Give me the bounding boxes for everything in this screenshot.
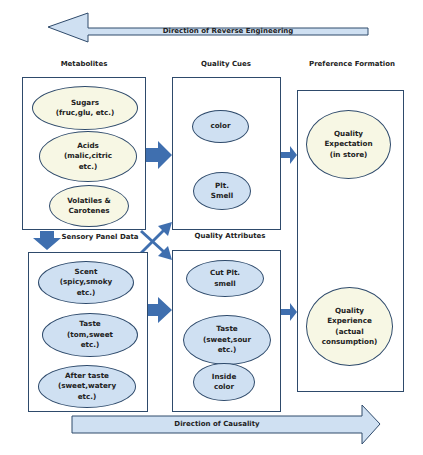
sensory-panel-header: Sensory Panel Data [60,233,140,241]
cue-color: color [192,110,249,143]
attributes-to-preference-arrow [281,303,297,321]
causality-label: Direction of Causality [72,420,362,429]
reverse-engineering-label: Direction of Reverse Engineering [88,28,368,35]
sensory-aftertaste: After taste (sweet,watery etc.) [38,365,136,408]
preference-formation-header: Preference Formation [296,60,408,68]
sensory-scent: Scent (spicy,smoky etc.) [38,261,134,304]
sensory-taste: Taste (tom,sweet etc.) [42,313,138,357]
quality-experience: Quality Experience (actual consumption) [306,287,393,366]
metabolites-to-cues-arrow [146,141,172,169]
attribute-taste: Taste (sweet,sour etc.) [183,315,271,365]
cue-plant-smell: Plt. Smell [193,172,251,210]
quality-cues-header: Quality Cues [172,60,280,68]
quality-attributes-header: Quality Attributes [180,232,280,240]
metabolite-sugars: Sugars (fruc,glu, etc.) [32,86,138,130]
cues-to-preference-arrow [281,146,297,164]
metabolite-volatiles: Volatiles & Carotenes [49,185,129,227]
quality-expectation: Quality Expectation (in store) [306,110,391,179]
sensory-to-attributes-arrow [147,297,172,323]
metabolites-header: Metabolites [22,60,146,68]
attribute-cut-plant-smell: Cut Plt. smell [186,260,264,297]
metabolites-to-sensory-arrow [33,231,61,250]
attribute-inside-color: Inside color [193,363,255,401]
metabolite-acids: Acids (malic,citric etc.) [39,131,137,182]
